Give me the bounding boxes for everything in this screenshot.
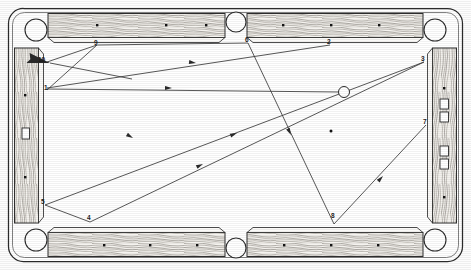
diamond-bottom-6 — [377, 244, 379, 246]
diamond-right-3 — [443, 196, 445, 198]
diamond-bottom-1 — [103, 244, 105, 246]
diamond-bottom-2 — [149, 244, 151, 246]
rail-bottom-left — [48, 228, 225, 257]
billiards-diagram-canvas: 1 2 3 4 5 6 7 8 9 10 — [0, 0, 471, 270]
side-pocket-top — [226, 12, 246, 32]
path-label-5: 5 — [41, 199, 45, 206]
path-label-9: 9 — [94, 40, 98, 47]
corner-pocket-top-right — [424, 19, 446, 41]
corner-pocket-top-left — [25, 19, 47, 41]
right-rail-sight-plate-bottom — [440, 159, 449, 169]
right-rail-sight-plate-lower — [440, 146, 449, 156]
table-outer-frame — [9, 9, 463, 262]
corner-pocket-bottom-left — [25, 229, 47, 251]
path-label-7: 7 — [423, 119, 427, 126]
diamond-top-3 — [205, 24, 207, 26]
rail-right — [428, 48, 457, 223]
diamond-top-2 — [165, 24, 167, 26]
path-label-6: 6 — [245, 37, 249, 44]
right-rail-sight-plate-mid — [440, 112, 449, 122]
right-rail-sight-plate-upper — [440, 99, 449, 109]
rail-top-left — [48, 14, 225, 43]
left-rail-sight-plate — [22, 128, 30, 139]
diamond-right-1 — [443, 87, 445, 89]
diamond-top-6 — [378, 24, 380, 26]
diamond-top-5 — [330, 24, 332, 26]
corner-pocket-bottom-right — [424, 229, 446, 251]
path-label-2: 2 — [327, 39, 331, 46]
diamond-left-2 — [24, 176, 26, 178]
diamond-bottom-3 — [196, 244, 198, 246]
path-label-8: 8 — [331, 213, 335, 220]
diamond-left-1 — [24, 94, 26, 96]
path-label-1: 1 — [44, 85, 48, 92]
rail-top-right — [247, 14, 423, 43]
foot-spot — [330, 130, 333, 133]
path-label-10: 10 — [38, 57, 45, 64]
path-label-4: 4 — [87, 215, 91, 222]
cue-ball — [339, 87, 350, 98]
rail-bottom-right — [247, 228, 423, 257]
path-label-3: 3 — [421, 56, 425, 63]
table-vector-layer — [0, 0, 471, 270]
diamond-top-4 — [282, 24, 284, 26]
diamond-top-1 — [96, 24, 98, 26]
side-pocket-bottom — [226, 238, 246, 258]
diamond-bottom-4 — [283, 244, 285, 246]
diamond-bottom-5 — [330, 244, 332, 246]
